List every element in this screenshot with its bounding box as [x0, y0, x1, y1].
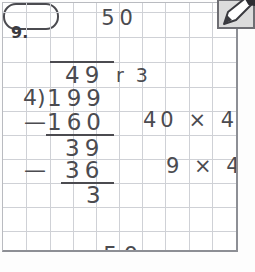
subtrahend-second-step: 36 [65, 159, 104, 182]
grid-paper-sheet: 9. 50 49 r 3 4) 199 — 160 39 — 36 3 40 ×… [2, 2, 238, 252]
boxed-answer-value: 50 [3, 6, 236, 30]
dividend: 199 [47, 87, 106, 110]
grid-line-vertical [119, 3, 120, 250]
quotient: 49 [65, 64, 104, 87]
grid-line-horizontal [3, 135, 236, 136]
grid-line-horizontal [3, 37, 236, 38]
side-note-second-step: 9 × 4 [166, 156, 238, 177]
side-note-first-step: 40 × 4 [143, 110, 238, 131]
boxed-answer: 50 [3, 3, 59, 30]
grid-line-horizontal [3, 62, 236, 63]
answer-sentence-unit: pages [144, 242, 223, 252]
answer-sentence-number: 50 [103, 242, 144, 252]
minus-sign-first-step: — [24, 111, 46, 133]
edit-pencil-icon[interactable] [214, 0, 255, 34]
subtrahend-first-step: 160 [47, 111, 106, 134]
final-remainder: 3 [86, 184, 106, 207]
minus-sign-second-step: — [24, 159, 46, 181]
divisor: 4) [23, 87, 46, 109]
grid-line-horizontal [3, 183, 236, 184]
answer-sentence: 50pages [47, 221, 224, 252]
worksheet-screenshot: 9. 50 49 r 3 4) 199 — 160 39 — 36 3 40 ×… [0, 0, 255, 272]
grid-line-horizontal [3, 207, 236, 208]
quotient-remainder-label: r 3 [116, 66, 151, 85]
